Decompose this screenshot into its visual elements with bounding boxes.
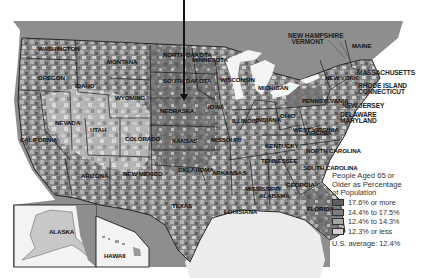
legend-label: 14.4% to 17.5%	[348, 208, 400, 217]
pointer-arrowhead-icon	[180, 94, 188, 101]
state-label-west-virginia: WEST VIRGINIA	[293, 127, 339, 133]
state-label-iowa: IOWA	[208, 104, 224, 110]
state-label-michigan: MICHIGAN	[258, 85, 288, 91]
inset-label-hawaii: HAWAII	[104, 253, 125, 259]
legend-row: 12.3% or less	[332, 227, 422, 236]
state-label-kansas: KANSAS	[172, 138, 198, 144]
state-label-new-jersey: NEW JERSEY	[342, 103, 384, 109]
us-average: U.S. average: 12.4%	[332, 239, 422, 248]
state-label-colorado: COLORADO	[125, 136, 160, 142]
state-label-utah: UTAH	[90, 127, 106, 133]
state-label-north-carolina: NORTH CAROLINA	[306, 148, 361, 154]
alaska-inset	[14, 205, 96, 267]
state-label-missouri: MISSOURI	[211, 137, 241, 143]
legend-label: 17.6% or more	[348, 198, 396, 207]
legend-row: 17.6% or more	[332, 198, 422, 207]
legend-swatch-icon	[332, 199, 344, 206]
state-label-louisiana: LOUISIANA	[224, 209, 257, 215]
state-label-wisconsin: WISCONSIN	[220, 77, 255, 83]
state-label-oregon: OREGON	[38, 75, 65, 81]
state-label-arizona: ARIZONA	[81, 173, 109, 179]
inset-label-alaska: ALASKA	[49, 229, 74, 235]
state-label-nebraska: NEBRASKA	[160, 108, 194, 114]
state-label-washington: WASHINGTON	[38, 46, 80, 52]
legend-title: People Aged 65 or Older as Percentage of…	[332, 172, 422, 198]
state-label-illinois: ILLINOIS	[232, 118, 257, 124]
state-label-new-york: NEW YORK	[325, 75, 358, 81]
state-label-delaware-maryland: DELAWARE MARYLAND	[340, 112, 377, 125]
state-label-oklahoma: OKLAHOMA	[178, 167, 214, 173]
state-label-new-mexico: NEW MEXICO	[123, 171, 163, 177]
state-label-maine: MAINE	[352, 43, 371, 49]
state-label-rhode-island-connecticut: RHODE ISLAND CONNECTICUT	[358, 83, 407, 96]
legend-label: 12.3% or less	[348, 227, 392, 236]
legend-row: 14.4% to 17.5%	[332, 208, 422, 217]
state-label-nevada: NEVADA	[55, 120, 80, 126]
state-label-kentucky: KENTUCKY	[265, 143, 299, 149]
legend-row: 12.4% to 14.3%	[332, 217, 422, 226]
state-label-massachusetts: MASSACHUSETTS	[357, 70, 415, 76]
state-label-montana: MONTANA	[107, 59, 137, 65]
legend-swatch-icon	[332, 209, 344, 216]
state-label-idaho: IDAHO	[75, 83, 94, 89]
state-label-california: CALIFORNIA	[20, 137, 57, 143]
state-label-minnesota: MINNESOTA	[192, 57, 228, 63]
legend: People Aged 65 or Older as Percentage of…	[332, 172, 422, 248]
legend-label: 12.4% to 14.3%	[348, 217, 400, 226]
state-label-florida: FLORIDA	[307, 206, 334, 212]
state-label-indiana: INDIANA	[256, 117, 281, 123]
state-label-south-dakota: SOUTH DAKOTA	[163, 78, 211, 84]
state-label-texas: TEXAS	[172, 203, 192, 209]
state-label-new-hampshire-vermont: NEW HAMPSHIRE VERMONT	[288, 33, 343, 46]
state-label-wyoming: WYOMING	[115, 95, 145, 101]
legend-swatch-icon	[332, 218, 344, 225]
state-label-arkansas: ARKANSAS	[212, 170, 246, 176]
state-label-alabama: ALABAMA	[259, 193, 290, 199]
state-label-ohio: OHIO	[280, 113, 295, 119]
legend-classes: 17.6% or more 14.4% to 17.5% 12.4% to 14…	[332, 198, 422, 236]
state-label-tennessee: TENNESSEE	[261, 158, 298, 164]
legend-swatch-icon	[332, 228, 344, 235]
state-label-georgia: GEORGIA	[286, 182, 315, 188]
